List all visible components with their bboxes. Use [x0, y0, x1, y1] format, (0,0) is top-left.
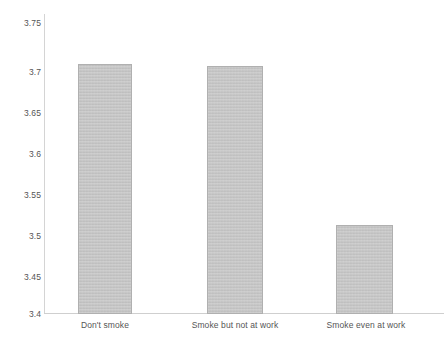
bar-chart-figure: 3.75 3.7 3.65 3.6 3.55 3.5 3.45 3.4 Don'… — [0, 0, 444, 352]
x-axis-label-smoke-even-at-work: Smoke even at work — [302, 320, 430, 331]
bar-smoke-but-not-at-work — [207, 66, 263, 314]
bars-layer — [0, 0, 444, 352]
x-axis-label-dont-smoke: Don't smoke — [45, 320, 165, 331]
bar-smoke-even-at-work — [336, 225, 393, 314]
bar-dont-smoke — [78, 64, 132, 314]
x-axis-label-smoke-but-not-at-work: Smoke but not at work — [170, 320, 300, 331]
